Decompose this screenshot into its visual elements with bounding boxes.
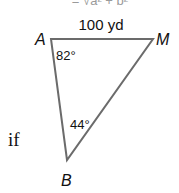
formula-fragment: = √a² + b²: [72, 0, 129, 8]
side-am-label: 100 yd: [78, 16, 123, 33]
triangle-diagram: = √a² + b² 100 yd A M B 82° 44° if: [0, 0, 179, 193]
angle-a-label: 82°: [56, 48, 76, 63]
vertex-a-label: A: [34, 31, 46, 48]
prose-fragment: if: [8, 129, 20, 150]
vertex-m-label: M: [156, 31, 170, 48]
vertex-b-label: B: [61, 172, 72, 189]
angle-b-label: 44°: [70, 117, 90, 132]
